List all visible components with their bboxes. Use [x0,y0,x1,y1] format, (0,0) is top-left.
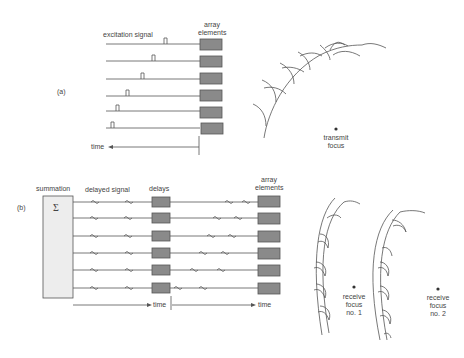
summation-label: summation [36,185,70,193]
excitation-signal-label: excitation signal [103,31,153,39]
panel-a-label: (a) [57,88,66,95]
transmit-focus-line1: transmit [322,134,350,142]
array-elements-b [258,196,280,294]
sigma-symbol: Σ [53,202,59,214]
receive-focus-1-line2: focus [340,301,368,309]
receive-focus-2-label: receive focus no. 2 [424,294,452,318]
time-label-b-right: time [258,301,271,309]
excitation-pulses [111,38,167,128]
delayed-signal-label: delayed signal [85,186,130,194]
excitation-lines [106,44,200,128]
array-elements-line1: array [198,21,226,29]
transmit-wavefront [253,42,386,138]
receive-wavefront-2 [373,210,425,340]
transmit-focus-label: transmit focus [322,134,350,150]
transmit-focus-line2: focus [322,142,350,150]
receive-focus-1-label: receive focus no. 1 [340,293,368,317]
time-label-a: time [91,143,104,151]
array-elements-line1: array [255,176,283,184]
array-elements-a [200,39,223,134]
receive-focus-2-line2: focus [424,302,452,310]
array-elements-label-b: array elements [255,176,283,192]
receive-focus-1-line3: no. 1 [340,309,368,317]
array-elements-label-a: array elements [198,21,226,37]
receive-focus-2-line1: receive [424,294,452,302]
delays-label: delays [149,185,169,193]
time-label-b-left: time [153,301,166,309]
array-elements-line2: elements [198,29,226,37]
delay-boxes [152,197,170,293]
panel-b-label: (b) [17,204,26,211]
array-elements-line2: elements [255,184,283,192]
receive-focus-2-line3: no. 2 [424,310,452,318]
beamforming-diagram [0,0,464,358]
receive-focus-1-line1: receive [340,293,368,301]
